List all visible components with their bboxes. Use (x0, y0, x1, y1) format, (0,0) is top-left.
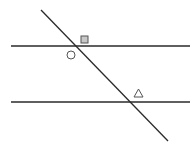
diagram-svg (0, 0, 194, 147)
transversal-line (41, 10, 168, 141)
triangle-angle-marker-icon (134, 89, 143, 97)
diagram-canvas (0, 0, 194, 147)
circle-angle-marker-icon (67, 51, 75, 59)
square-angle-marker-icon (81, 36, 88, 43)
